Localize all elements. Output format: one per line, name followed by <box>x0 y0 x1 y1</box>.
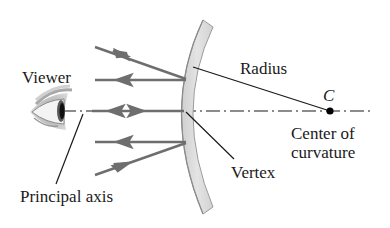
incident-ray-bottom <box>95 143 186 175</box>
center-point <box>326 107 333 114</box>
mirror <box>182 20 214 214</box>
principal-axis-label: Principal axis <box>20 187 113 206</box>
rays <box>92 47 186 175</box>
radius-label: Radius <box>240 59 287 78</box>
center-label-line2: curvature <box>291 143 355 162</box>
axis-ray <box>92 106 184 116</box>
vertex-label: Vertex <box>231 163 275 182</box>
center-of-curvature-label: Center of curvature <box>291 124 355 162</box>
center-label-line1: Center of <box>291 124 355 143</box>
reflected-ray-bottom <box>95 137 186 147</box>
eye-icon <box>30 86 72 130</box>
viewer-label: Viewer <box>22 68 71 87</box>
incident-ray-top <box>95 47 186 79</box>
mirror-diagram: Viewer Radius C Center of curvature Vert… <box>0 0 390 228</box>
center-symbol-label: C <box>323 86 334 105</box>
reflected-ray-top <box>95 75 186 85</box>
